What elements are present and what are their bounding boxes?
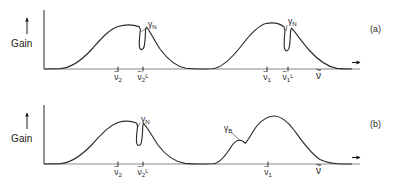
panel-b: Gain (b) ~ν2 ~ν2L ~ν1 ~ν γN γB bbox=[0, 95, 403, 190]
tick-label-nu1-b: ~ν1 bbox=[264, 168, 272, 178]
leader-gammaB-b bbox=[231, 132, 240, 141]
y-axis-label-a: Gain bbox=[11, 38, 33, 49]
tick-label-nu2-b: ~ν2 bbox=[114, 168, 122, 178]
tick-label-nu1L-a: ~ν1L bbox=[283, 73, 294, 83]
panel-a-plot bbox=[0, 0, 403, 95]
y-axis-arrowhead-b bbox=[25, 113, 29, 117]
panel-b-plot bbox=[0, 95, 403, 190]
tick-label-nu2L-b: ~ν2L bbox=[138, 168, 149, 178]
gain-curve-band2-b bbox=[44, 121, 205, 164]
tick-label-nu1-a: ~ν1 bbox=[263, 73, 271, 83]
panel-tag-b: (b) bbox=[370, 119, 381, 129]
y-axis-arrowhead-a bbox=[25, 18, 29, 22]
y-axis-label-b: Gain bbox=[11, 133, 33, 144]
panel-a: Gain (a) ~ν2 ~ν2L ~ν1 ~ν1L ~ν γN γN bbox=[0, 0, 403, 95]
spectral-gain-figure: Gain (a) ~ν2 ~ν2L ~ν1 ~ν1L ~ν γN γN bbox=[0, 0, 403, 191]
leader-gammaN-2-a bbox=[286, 25, 287, 31]
x-axis-arrowhead-b bbox=[357, 156, 361, 160]
tick-label-nu2-a: ~ν2 bbox=[114, 73, 122, 83]
x-axis-arrowhead-a bbox=[357, 61, 361, 65]
leader-gammaN-1-a bbox=[142, 28, 148, 32]
annotation-gamma-b-b: γB bbox=[224, 124, 232, 134]
tick-label-nu2L-a: ~ν2L bbox=[138, 73, 149, 83]
annotation-gamma-n-1-a: γN bbox=[148, 20, 157, 30]
gain-curve-band2-a bbox=[44, 25, 205, 69]
annotation-gamma-n-b: γN bbox=[141, 115, 150, 125]
leader-gammaN-b bbox=[138, 123, 140, 128]
x-axis-label-b: ~ν bbox=[316, 166, 321, 176]
x-axis-label-a: ~ν bbox=[316, 71, 321, 81]
panel-tag-a: (a) bbox=[370, 24, 381, 34]
annotation-gamma-n-2-a: γN bbox=[288, 17, 297, 27]
gain-curve-band1-a bbox=[205, 23, 352, 69]
